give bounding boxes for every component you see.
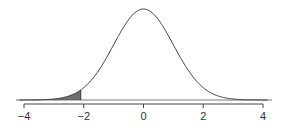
x-tick-label: −2 <box>77 110 90 122</box>
x-tick-label: −4 <box>18 110 31 122</box>
x-tick-label: 0 <box>140 110 146 122</box>
x-axis-ticks: −4−2024 <box>18 104 266 122</box>
density-curve <box>20 9 268 100</box>
x-tick-label: 4 <box>260 110 266 122</box>
normal-distribution-chart: −4−2024 <box>0 0 284 131</box>
x-tick-label: 2 <box>200 110 206 122</box>
